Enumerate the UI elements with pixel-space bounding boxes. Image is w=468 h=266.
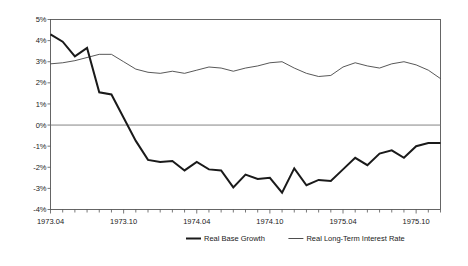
x-axis-tick-label: 1974.04 [183, 217, 210, 226]
y-axis-tick-label: -2% [33, 163, 47, 172]
y-axis-tick-label: 1% [36, 100, 47, 109]
chart-container: 5%4%3%2%1%0%-1%-2%-3%-4% 1973.041973.101… [0, 0, 468, 266]
y-axis-tick-label: 4% [36, 36, 47, 45]
legend-label: Real Base Growth [204, 234, 265, 243]
x-axis-tick-label: 1974.10 [256, 217, 283, 226]
y-axis-tick-label: 2% [36, 78, 47, 87]
y-axis-tick-label: 0% [36, 121, 47, 130]
x-axis-tick-label: 1973.04 [37, 217, 64, 226]
y-axis-tick-label: -4% [33, 205, 47, 214]
y-axis-tick-label: -3% [33, 184, 47, 193]
chart-background [0, 0, 468, 266]
y-axis-tick-label: -1% [33, 142, 47, 151]
line-chart: 5%4%3%2%1%0%-1%-2%-3%-4% 1973.041973.101… [0, 0, 468, 266]
y-axis-tick-label: 5% [36, 15, 47, 24]
x-axis-tick-label: 1973.10 [110, 217, 137, 226]
x-axis-tick-label: 1975.10 [403, 217, 430, 226]
legend-label: Real Long-Term Interest Rate [306, 234, 404, 243]
x-axis-tick-label: 1975.04 [329, 217, 356, 226]
y-axis-tick-label: 3% [36, 57, 47, 66]
